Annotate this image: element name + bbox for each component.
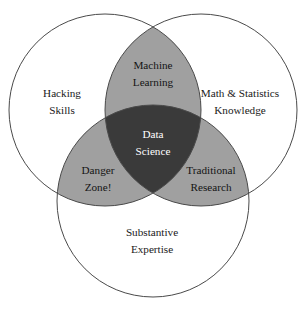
label-traditional-research-line2: Research [191, 181, 232, 193]
label-danger-zone-line2: Zone! [85, 181, 112, 193]
label-machine-learning-line1: Machine [133, 59, 172, 71]
venn-diagram-canvas: Hacking Skills Math & Statistics Knowled… [0, 0, 307, 314]
label-data-science-line2: Science [136, 145, 171, 157]
label-danger-zone-line1: Danger [82, 164, 115, 176]
label-substantive-expertise-line1: Substantive [126, 226, 178, 238]
label-math-statistics-line2: Knowledge [214, 104, 266, 116]
label-machine-learning-line2: Learning [133, 76, 174, 88]
label-data-science-line1: Data [142, 128, 163, 140]
label-hacking-skills-line1: Hacking [43, 87, 81, 99]
label-math-statistics-line1: Math & Statistics [201, 87, 279, 99]
label-substantive-expertise-line2: Expertise [131, 243, 173, 255]
label-hacking-skills-line2: Skills [49, 104, 75, 116]
venn-diagram: Hacking Skills Math & Statistics Knowled… [0, 0, 307, 314]
label-traditional-research-line1: Traditional [186, 164, 235, 176]
